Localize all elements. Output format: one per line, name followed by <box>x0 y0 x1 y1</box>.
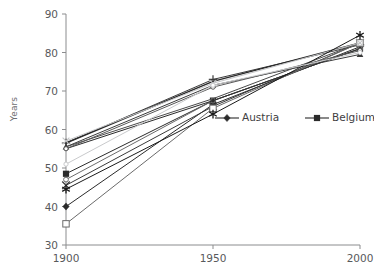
series-australia <box>63 39 364 144</box>
legend-item-austria[interactable]: Austria <box>214 108 304 126</box>
series-austria <box>63 43 363 210</box>
y-tick-label: 30 <box>45 239 58 251</box>
y-tick-label: 90 <box>45 8 58 20</box>
y-axis: 30405060708090 <box>45 8 66 251</box>
legend-label: Austria <box>240 111 279 123</box>
line-chart-figure: Years 30405060708090 190019502000 Austri… <box>0 0 374 276</box>
plot-canvas: 30405060708090 190019502000 <box>0 0 374 276</box>
x-axis: 190019502000 <box>53 245 374 264</box>
x-tick-label: 2000 <box>347 252 374 264</box>
chart-legend: AustriaBelgiumDenmarkFranceGermanyGreece… <box>214 108 372 126</box>
filled-diamond-icon <box>214 110 240 124</box>
y-tick-label: 80 <box>45 47 58 59</box>
legend-item-belgium[interactable]: Belgium <box>304 108 372 126</box>
x-tick-label: 1950 <box>200 252 227 264</box>
data-series-layer <box>62 31 364 227</box>
y-tick-label: 40 <box>45 201 58 213</box>
y-tick-label: 70 <box>45 85 58 97</box>
y-tick-label: 60 <box>45 124 58 136</box>
legend-label: Belgium <box>330 111 374 123</box>
filled-square-icon <box>304 110 330 124</box>
x-tick-label: 1900 <box>53 252 80 264</box>
y-tick-label: 50 <box>45 162 58 174</box>
